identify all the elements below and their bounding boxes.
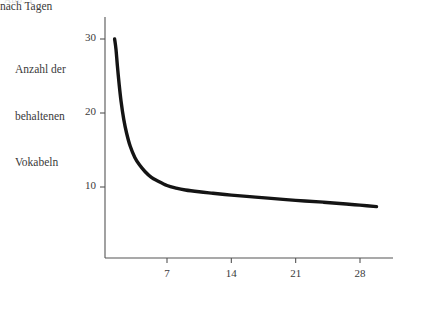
forgetting-curve-figure: Abb. 1 Anzahl der behaltenen Vokabeln na… [0, 0, 422, 310]
x-tick-label: 7 [147, 267, 187, 279]
x-tick-label: 14 [211, 267, 251, 279]
y-axis-title-line-1: Anzahl der [15, 62, 66, 78]
y-axis-title-line-2: behaltenen [15, 109, 66, 125]
y-axis-title: Anzahl der behaltenen Vokabeln [15, 31, 66, 202]
y-tick-label: 10 [66, 179, 96, 191]
y-tick-label: 20 [66, 105, 96, 117]
ticks-group [100, 39, 360, 263]
x-tick-label: 28 [340, 267, 380, 279]
y-axis-title-line-3: Vokabeln [15, 155, 66, 171]
data-series-group [115, 39, 377, 207]
y-tick-label: 30 [66, 31, 96, 43]
x-tick-label: 21 [276, 267, 316, 279]
axes-group [105, 17, 393, 258]
forgetting-curve-line [115, 39, 377, 207]
